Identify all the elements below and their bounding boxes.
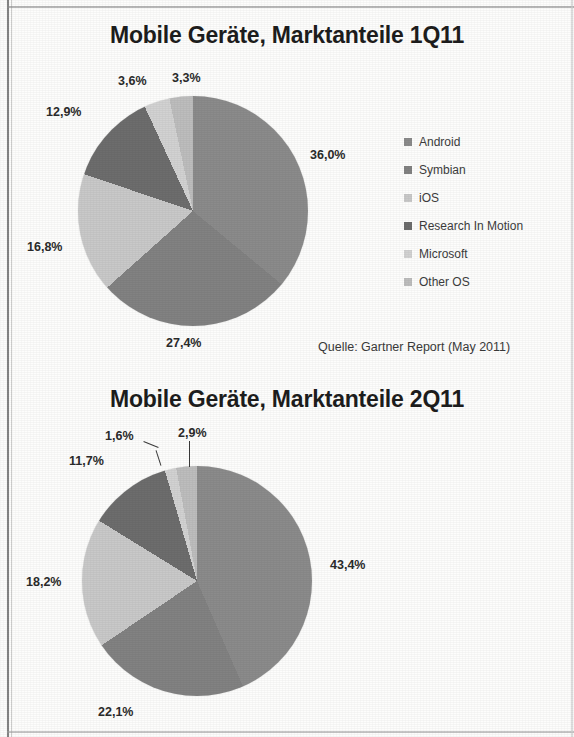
- slice-label-microsoft-2q11: 1,6%: [105, 429, 134, 443]
- pie-wrap-1q11: [78, 96, 308, 326]
- pie-chart-2q11: Mobile Geräte, Marktanteile 2Q11 43,4% 2…: [0, 368, 574, 737]
- pie-graphic-2q11: [82, 466, 312, 696]
- legend-item-microsoft[interactable]: Microsoft: [404, 240, 523, 268]
- legend-1q11: AndroidSymbianiOSResearch In MotionMicro…: [404, 128, 523, 296]
- legend-item-other-os[interactable]: Other OS: [404, 268, 523, 296]
- legend-item-label: Other OS: [419, 275, 470, 289]
- slice-label-symbian-1q11: 27,4%: [166, 336, 201, 350]
- slice-label-rim-2q11: 11,7%: [69, 454, 104, 468]
- legend-swatch-icon: [404, 194, 412, 202]
- leader-line-microsoft-2q11: [143, 441, 158, 448]
- chart-title-1q11: Mobile Geräte, Marktanteile 1Q11: [0, 22, 574, 49]
- leader-line-other-os-2q11: [189, 441, 190, 467]
- slice-label-ios-1q11: 16,8%: [27, 240, 62, 254]
- legend-swatch-icon: [404, 250, 412, 258]
- slice-label-other-os-1q11: 3,3%: [172, 71, 201, 85]
- chart-title-2q11: Mobile Geräte, Marktanteile 2Q11: [0, 386, 574, 413]
- pie-chart-1q11: Mobile Geräte, Marktanteile 1Q11 36,0% 2…: [0, 0, 574, 368]
- slice-label-symbian-2q11: 22,1%: [98, 705, 133, 719]
- legend-item-label: iOS: [419, 191, 439, 205]
- legend-swatch-icon: [404, 138, 412, 146]
- slice-label-microsoft-1q11: 3,6%: [118, 74, 147, 88]
- legend-item-label: Microsoft: [419, 247, 468, 261]
- pie-graphic-1q11: [78, 96, 308, 326]
- slice-label-rim-1q11: 12,9%: [46, 105, 81, 119]
- legend-item-ios[interactable]: iOS: [404, 184, 523, 212]
- legend-swatch-icon: [404, 278, 412, 286]
- leader-line-microsoft-2q11-stem: [156, 450, 162, 466]
- slice-label-other-os-2q11: 2,9%: [178, 426, 207, 440]
- source-note-1q11: Quelle: Gartner Report (May 2011): [318, 340, 510, 354]
- legend-item-label: Android: [419, 135, 460, 149]
- slice-label-android-2q11: 43,4%: [330, 558, 365, 572]
- legend-item-label: Research In Motion: [419, 219, 523, 233]
- legend-swatch-icon: [404, 166, 412, 174]
- slice-label-android-1q11: 36,0%: [310, 148, 345, 162]
- legend-swatch-icon: [404, 222, 412, 230]
- scanned-page: Mobile Geräte, Marktanteile 1Q11 36,0% 2…: [0, 0, 574, 737]
- legend-item-label: Symbian: [419, 163, 466, 177]
- slice-label-ios-2q11: 18,2%: [26, 575, 61, 589]
- legend-item-android[interactable]: Android: [404, 128, 523, 156]
- legend-item-research-in-motion[interactable]: Research In Motion: [404, 212, 523, 240]
- legend-item-symbian[interactable]: Symbian: [404, 156, 523, 184]
- pie-wrap-2q11: [82, 466, 312, 696]
